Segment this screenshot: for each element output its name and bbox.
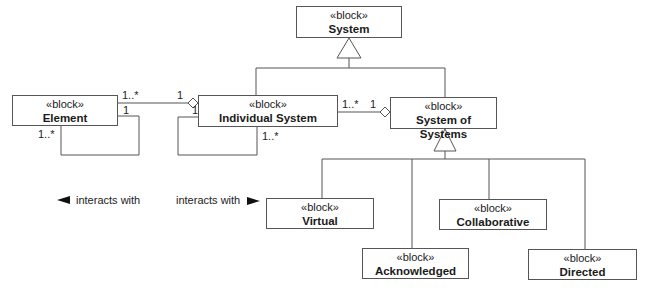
block-system-of-systems[interactable]: «block» System of Systems xyxy=(390,97,497,129)
multiplicity-sos-end: 1 xyxy=(370,98,376,110)
stereotype-label: «block» xyxy=(13,98,117,111)
block-element[interactable]: «block» Element xyxy=(12,95,118,126)
block-name: Individual System xyxy=(199,111,337,125)
direction-arrow-left-icon xyxy=(57,196,70,204)
multiplicity-individual-self-bottom: 1..* xyxy=(262,130,279,142)
stereotype-label: «block» xyxy=(267,201,373,214)
stereotype-label: «block» xyxy=(529,252,636,265)
block-virtual[interactable]: «block» Virtual xyxy=(266,198,374,229)
block-name: System of Systems xyxy=(391,113,496,141)
block-individual-system[interactable]: «block» Individual System xyxy=(198,95,338,127)
multiplicity-element-self-bottom: 1..* xyxy=(38,128,55,140)
generalization-arrowhead-system xyxy=(337,38,361,58)
multiplicity-element-self-top: 1 xyxy=(123,104,129,116)
stereotype-label: «block» xyxy=(199,98,337,111)
block-system[interactable]: «block» System xyxy=(296,6,402,38)
association-label-element: interacts with xyxy=(76,194,140,206)
multiplicity-individual-self-top: 1 xyxy=(192,104,198,116)
connector-layer xyxy=(0,0,649,291)
block-name: Element xyxy=(13,111,117,125)
multiplicity-element-end: 1..* xyxy=(122,89,139,101)
direction-arrow-right-icon xyxy=(247,197,260,205)
stereotype-label: «block» xyxy=(440,202,546,215)
multiplicity-individual-end: 1 xyxy=(177,89,183,101)
stereotype-label: «block» xyxy=(363,251,468,264)
aggregation-diamond-sos xyxy=(380,107,390,117)
stereotype-label: «block» xyxy=(391,100,496,113)
block-name: Virtual xyxy=(267,214,373,228)
multiplicity-individual-to-sos: 1..* xyxy=(342,98,359,110)
association-label-individual: interacts with xyxy=(176,194,240,206)
block-directed[interactable]: «block» Directed xyxy=(528,249,637,280)
block-acknowledged[interactable]: «block» Acknowledged xyxy=(362,248,469,279)
block-name: System xyxy=(297,22,401,36)
stereotype-label: «block» xyxy=(297,9,401,22)
block-name: Directed xyxy=(529,265,636,279)
block-collaborative[interactable]: «block» Collaborative xyxy=(439,199,547,230)
block-name: Collaborative xyxy=(440,215,546,229)
block-name: Acknowledged xyxy=(363,264,468,278)
